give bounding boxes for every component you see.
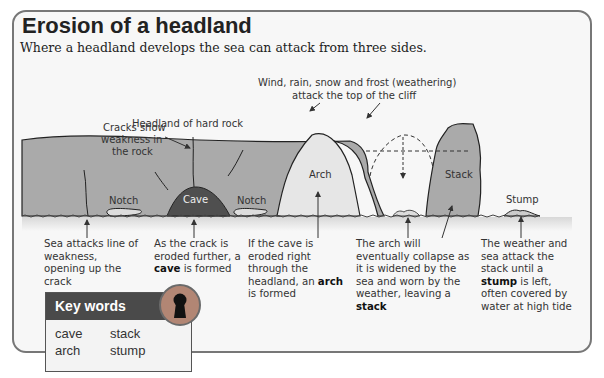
collapsed-arch-dome [370,135,433,176]
caption-stack-formed: The arch will eventually collapse as it … [356,238,474,313]
keyhole-icon [159,284,201,326]
sea-shading [22,217,572,231]
label-cracks-2: weakness in [101,134,162,145]
label-notch-left: Notch [109,195,138,206]
label-arch: Arch [309,169,332,180]
keyhole-glyph [161,286,199,324]
arrow-weathering-1 [310,103,320,111]
key-word: cave [55,325,110,342]
key-words-list: cave stack arch stump [46,320,191,359]
caption-keyword: stump [481,276,517,287]
arrow-weathering-2 [367,103,380,118]
key-word: stack [110,325,180,342]
caption-text: If the cave is eroded right through the … [248,238,318,287]
notch-left [107,208,142,216]
label-weathering-1: Wind, rain, snow and frost (weathering) [258,77,456,88]
key-word: stump [110,342,180,359]
caption-sea-attacks: Sea attacks line of weakness, opening up… [44,238,139,288]
caption-text: is formed [180,263,231,274]
caption-cave-formed: As the crack is eroded further, a cave i… [154,238,246,276]
label-cave: Cave [183,194,208,205]
label-stack: Stack [445,169,473,180]
caption-arch-formed: If the cave is eroded right through the … [248,238,352,301]
caption-text: Sea attacks line of weakness, opening up… [44,238,138,287]
caption-keyword: cave [154,263,180,274]
caption-text: The weather and sea attack the stack unt… [481,238,567,274]
label-weathering-2: attack the top of the cliff [292,90,417,101]
caption-text: The arch will eventually collapse as it … [356,238,469,299]
caption-text: is formed [248,288,296,299]
caption-keyword: arch [318,276,343,287]
key-word: arch [55,342,110,359]
caption-text: As the crack is eroded further, a [154,238,241,262]
label-stump: Stump [506,194,539,205]
stump-shape [504,210,540,216]
label-cracks-1: Cracks show [103,122,166,133]
label-cracks-3: the rock [112,146,153,157]
label-notch-right: Notch [237,195,266,206]
caption-stump-formed: The weather and sea attack the stack unt… [481,238,577,313]
caption-keyword: stack [356,301,387,312]
